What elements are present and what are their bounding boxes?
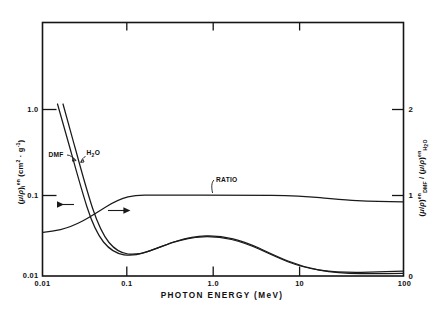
xtick-label-1: 0.1	[121, 279, 132, 288]
ytick-left-label-0: 1.0	[27, 105, 38, 114]
x-axis-title: PHOTON ENERGY (MeV)	[161, 291, 284, 300]
ytick-right-label-1: 1	[409, 191, 414, 200]
xtick-label-3: 10	[295, 279, 304, 288]
chart-background	[0, 0, 430, 313]
annotation-label-dmf: DMF	[49, 151, 64, 158]
svg-text:(μ/ρ)ien (cm2 · g-1): (μ/ρ)ien (cm2 · g-1)	[15, 139, 26, 204]
xtick-label-2: 1.0	[208, 279, 219, 288]
ytick-right-label-0: 2	[409, 105, 414, 114]
ytick-left-label-1: 0.1	[27, 191, 38, 200]
ytick-left-label-2: 0.01	[23, 271, 39, 280]
y-axis-title-left: (μ/ρ)ien (cm2 · g-1)	[15, 139, 26, 204]
ytick-right-label-2: 0	[409, 272, 414, 281]
annotation-label-ratio: RATIO	[216, 176, 238, 183]
photon-attenuation-chart: 0.01 0.1 1.0 10 100 1.0 0.1 0.01 2 1 0 P…	[0, 0, 430, 313]
